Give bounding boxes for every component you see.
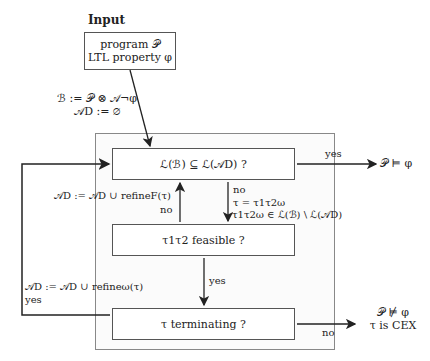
refine-termination: 𝒜D := 𝒜D ∪ refineω(τ) [25, 280, 143, 293]
feasible-no-label: no [160, 203, 172, 216]
inclusion-yes-label: yes [325, 147, 342, 160]
terminating-yes-label: yes [25, 293, 42, 306]
feasible-yes-label: yes [209, 274, 226, 287]
tau-is-cex: τ is CEX [358, 319, 428, 332]
refine-feasibility: 𝒜D := 𝒜D ∪ refineF(τ) [54, 189, 171, 202]
inclusion-no-label: no [233, 183, 245, 196]
property-holds-result: 𝒫 ⊨ φ [380, 157, 412, 170]
counterexample-membership: τ1τ2ω ∈ ℒ(ℬ) \ ℒ(𝒜D) [232, 208, 342, 221]
terminating-no-label: no [322, 326, 334, 339]
counterexample-result: 𝒫 ⊭ φ τ is CEX [358, 306, 428, 332]
property-violated: 𝒫 ⊭ φ [358, 306, 428, 319]
